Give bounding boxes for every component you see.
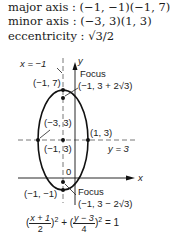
numerator-1: x + 1 [29, 213, 51, 224]
ellipse-equation: (x + 12)2 + (y − 34)2 = 1 [26, 213, 119, 234]
focus-bottom-title: Focus [78, 186, 104, 197]
directrix-label: x = −1 [20, 58, 46, 69]
origin-label: 0 [66, 166, 71, 177]
center-point [61, 138, 65, 142]
x-axis-label: x [138, 172, 143, 183]
right-vertex-label: (1, 3) [90, 127, 112, 138]
plus-sign: + [58, 217, 69, 228]
top-vertex-point [61, 88, 65, 92]
x-axis-arrow-icon [126, 176, 135, 181]
y-axis-label: y [78, 55, 83, 66]
focus-bottom-point [61, 180, 65, 184]
left-vertex-point [36, 138, 40, 142]
focus-bottom-coords: (−1, 3 − 2√3) [78, 198, 132, 209]
fraction-2: y − 34 [73, 213, 95, 234]
numerator-2: y − 3 [73, 213, 95, 224]
fraction-1: x + 12 [29, 213, 51, 234]
denominator-1: 2 [29, 224, 51, 234]
y-equals-3-label: y = 3 [108, 143, 129, 154]
denominator-2: 4 [73, 224, 95, 234]
equals-one: = 1 [102, 217, 119, 228]
focus-top-leader [65, 88, 78, 96]
focus-top-point [61, 96, 65, 100]
bottom-vertex-label: (−1, −1) [24, 188, 57, 199]
left-vertex-leader [40, 130, 50, 138]
focus-top-coords: (−1, 3 + 2√3) [78, 80, 132, 91]
top-vertex-label: (−1, 7) [33, 77, 61, 88]
y-axis-arrow-icon [73, 62, 78, 70]
bottom-vertex-point [61, 188, 65, 192]
left-vertex-label: (−3, 3) [44, 117, 72, 128]
directrix-leader [57, 68, 62, 73]
center-label: (−1, 3) [44, 143, 72, 154]
right-vertex-point [86, 138, 90, 142]
focus-top-title: Focus [80, 68, 106, 79]
